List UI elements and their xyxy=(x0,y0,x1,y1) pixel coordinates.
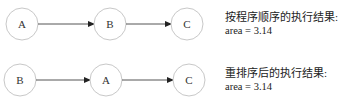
node-row1-3: C xyxy=(171,8,203,40)
node-label: A xyxy=(102,74,110,86)
caption-title: 按程序顺序的执行结果: xyxy=(225,10,338,24)
row-1-program-order: A B C xyxy=(6,8,203,40)
node-label: C xyxy=(185,74,192,86)
caption-value: area = 3.14 xyxy=(225,80,327,94)
node-label: A xyxy=(18,18,26,30)
node-row2-1: B xyxy=(4,64,36,96)
caption-reordered: 重排序后的执行结果: area = 3.14 xyxy=(225,66,327,94)
caption-title: 重排序后的执行结果: xyxy=(225,66,327,80)
node-row2-3: C xyxy=(173,64,205,96)
caption-value: area = 3.14 xyxy=(225,24,338,38)
node-label: B xyxy=(106,18,113,30)
node-label: C xyxy=(183,18,190,30)
node-row1-2: B xyxy=(94,8,126,40)
caption-program-order: 按程序顺序的执行结果: area = 3.14 xyxy=(225,10,338,38)
node-row1-1: A xyxy=(6,8,38,40)
node-label: B xyxy=(16,74,23,86)
node-row2-2: A xyxy=(90,64,122,96)
row-2-reordered: B A C xyxy=(4,64,205,96)
